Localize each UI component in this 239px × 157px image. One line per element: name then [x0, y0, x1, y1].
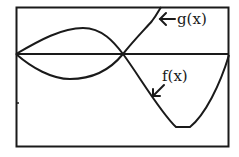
g-arrow-icon [160, 13, 175, 25]
f-curve [16, 28, 229, 127]
g-label: g(x) [177, 10, 207, 28]
f-label: f(x) [162, 67, 188, 85]
f-arrow-icon [153, 85, 164, 96]
function-graph: g(x) f(x) [0, 0, 239, 157]
graph-frame [17, 8, 229, 147]
